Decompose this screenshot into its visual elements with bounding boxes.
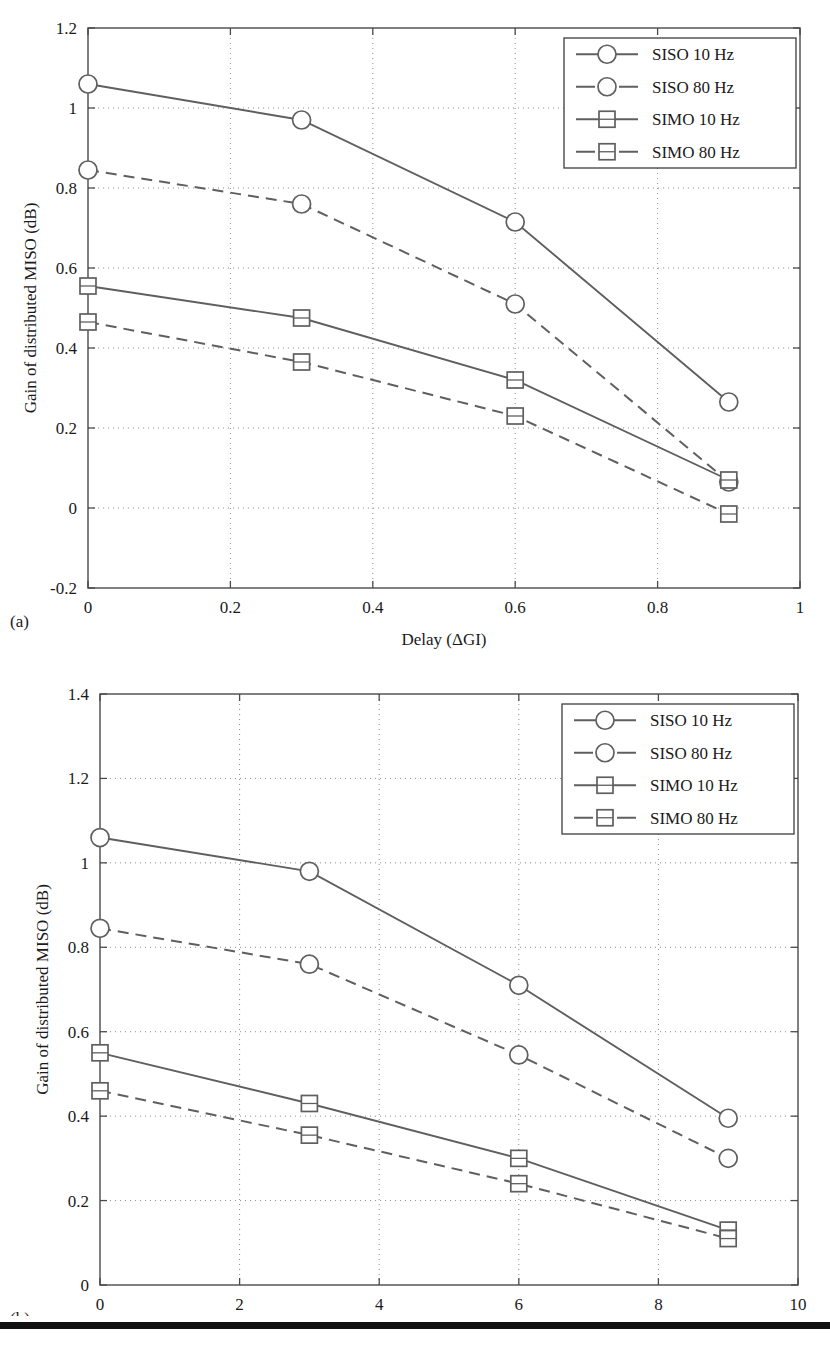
legend: SISO 10 HzSISO 80 HzSIMO 10 HzSIMO 80 Hz — [562, 704, 794, 834]
legend-circle-marker — [596, 711, 614, 729]
y-tick-label: 0.4 — [68, 1107, 90, 1126]
legend-item-label: SIMO 10 Hz — [652, 110, 740, 129]
data-point-marker — [300, 955, 318, 973]
series-line — [100, 928, 728, 1158]
chart-panel-a: -0.200.20.40.60.811.200.20.40.60.81Delay… — [0, 0, 830, 676]
y-tick-label: 1 — [69, 99, 78, 118]
x-tick-label: 0.8 — [647, 598, 668, 617]
data-point-marker — [293, 195, 311, 213]
x-tick-label: 2 — [235, 1295, 244, 1314]
x-tick-label: 1 — [796, 598, 805, 617]
y-tick-label: 0.2 — [56, 419, 77, 438]
panel-caption: (b) — [10, 1309, 30, 1316]
series-line — [100, 1091, 728, 1239]
series-simo-80-hz — [92, 1083, 736, 1247]
y-tick-label: 0.6 — [56, 259, 77, 278]
series-simo-10-hz — [92, 1045, 736, 1238]
x-tick-label: 0 — [84, 598, 93, 617]
legend: SISO 10 HzSISO 80 HzSIMO 10 HzSIMO 80 Hz — [564, 38, 796, 168]
x-tick-label: 0.4 — [362, 598, 384, 617]
series-line — [100, 1053, 728, 1230]
bottom-rule — [0, 1322, 830, 1329]
legend-item[interactable]: SIMO 10 Hz — [576, 110, 740, 129]
legend-item[interactable]: SIMO 80 Hz — [576, 143, 740, 162]
y-tick-label: -0.2 — [50, 579, 77, 598]
chart-panel-b: 00.20.40.60.811.21.40246810Power imbalan… — [0, 676, 830, 1316]
data-point-marker — [300, 862, 318, 880]
x-tick-label: 6 — [515, 1295, 524, 1314]
data-point-marker — [79, 75, 97, 93]
data-point-marker — [719, 1149, 737, 1167]
legend-item[interactable]: SIMO 80 Hz — [574, 809, 738, 828]
data-point-marker — [506, 213, 524, 231]
legend-item-label: SISO 10 Hz — [650, 711, 733, 730]
x-tick-label: 4 — [375, 1295, 384, 1314]
y-tick-label: 1.2 — [56, 19, 77, 38]
y-tick-label: 0.4 — [56, 339, 78, 358]
legend-item-label: SISO 80 Hz — [652, 78, 735, 97]
y-axis-label: Gain of distributed MISO (dB) — [21, 203, 40, 414]
x-tick-label: 10 — [790, 1295, 807, 1314]
y-tick-label: 1 — [81, 854, 90, 873]
panel-caption: (a) — [10, 612, 29, 631]
legend-circle-marker — [596, 744, 614, 762]
chart-a-svg: -0.200.20.40.60.811.200.20.40.60.81Delay… — [0, 0, 830, 676]
data-point-marker — [510, 1046, 528, 1064]
data-point-marker — [293, 111, 311, 129]
y-tick-label: 0.2 — [68, 1192, 89, 1211]
chart-b-svg: 00.20.40.60.811.21.40246810Power imbalan… — [0, 676, 830, 1316]
y-tick-label: 1.2 — [68, 769, 89, 788]
data-point-marker — [79, 161, 97, 179]
y-tick-label: 0.8 — [56, 179, 77, 198]
x-tick-label: 0 — [96, 1295, 105, 1314]
x-axis-label: Delay (ΔGI) — [401, 630, 486, 649]
y-tick-label: 0 — [81, 1276, 90, 1295]
series-line — [88, 322, 729, 514]
x-tick-label: 0.2 — [220, 598, 241, 617]
y-tick-label: 0.8 — [68, 938, 89, 957]
legend-item-label: SIMO 10 Hz — [650, 776, 738, 795]
figure-page: -0.200.20.40.60.811.200.20.40.60.81Delay… — [0, 0, 830, 1353]
legend-item-label: SIMO 80 Hz — [652, 143, 740, 162]
y-tick-label: 1.4 — [68, 685, 90, 704]
series-simo-10-hz — [80, 278, 737, 488]
series-siso-10-hz — [91, 829, 737, 1128]
data-point-marker — [506, 295, 524, 313]
legend-item-label: SISO 10 Hz — [652, 45, 735, 64]
legend-circle-marker — [598, 78, 616, 96]
y-tick-label: 0.6 — [68, 1023, 89, 1042]
y-axis-label: Gain of distributed MISO (dB) — [33, 884, 52, 1095]
legend-item-label: SISO 80 Hz — [650, 744, 733, 763]
data-point-marker — [720, 393, 738, 411]
series-line — [88, 286, 729, 480]
data-point-marker — [510, 976, 528, 994]
data-point-marker — [91, 919, 109, 937]
x-tick-label: 0.6 — [505, 598, 526, 617]
legend-item[interactable]: SIMO 10 Hz — [574, 776, 738, 795]
x-tick-label: 8 — [654, 1295, 663, 1314]
data-point-marker — [719, 1109, 737, 1127]
legend-circle-marker — [598, 45, 616, 63]
legend-item-label: SIMO 80 Hz — [650, 809, 738, 828]
data-point-marker — [91, 829, 109, 847]
series-simo-80-hz — [80, 314, 737, 522]
y-tick-label: 0 — [69, 499, 78, 518]
